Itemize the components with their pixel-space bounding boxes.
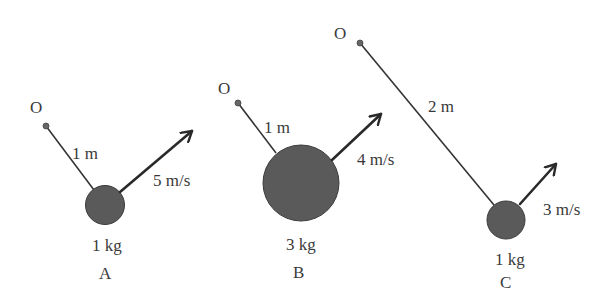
mass-label-c: 1 kg (495, 250, 525, 269)
system-a: O 1 m 5 m/s 1 kg A (30, 98, 192, 283)
mass-label-b: 3 kg (286, 235, 316, 254)
mass-ball-b (263, 145, 339, 221)
velocity-label-a: 5 m/s (153, 171, 190, 190)
velocity-label-c: 3 m/s (543, 200, 580, 219)
pivot-label-a: O (30, 98, 42, 117)
velocity-label-b: 4 m/s (357, 150, 394, 169)
length-label-b: 1 m (264, 118, 290, 137)
system-label-c: C (500, 273, 511, 292)
system-b: O 1 m 4 m/s 3 kg B (218, 79, 394, 282)
pivot-label-b: O (218, 79, 230, 98)
pivot-label-c: O (334, 24, 346, 43)
velocity-arrow-c (520, 164, 556, 204)
system-label-a: A (99, 264, 112, 283)
length-label-c: 2 m (428, 97, 454, 116)
pivot-point-b (235, 100, 241, 106)
rod-c (360, 43, 494, 205)
length-label-a: 1 m (72, 144, 98, 163)
diagram-canvas: O 1 m 5 m/s 1 kg A O 1 m 4 m/s 3 kg B O … (0, 0, 612, 303)
mass-ball-c (487, 201, 525, 239)
system-label-b: B (293, 263, 304, 282)
mass-label-a: 1 kg (92, 236, 122, 255)
pivot-point-c (357, 40, 363, 46)
pivot-point-a (43, 123, 49, 129)
mass-ball-a (86, 186, 125, 225)
